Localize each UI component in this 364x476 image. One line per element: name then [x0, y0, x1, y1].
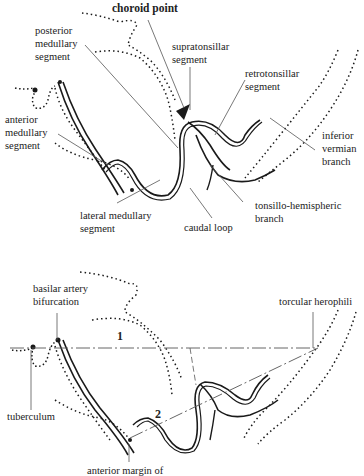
reference-line-2 — [130, 348, 318, 438]
pica-loop-inner — [106, 122, 262, 200]
label-anterior-medullary-segment: anterior medullary segment — [5, 113, 48, 152]
label-tuberculum: tuberculum — [7, 410, 55, 423]
label-lateral-medullary-segment: lateral medullary segment — [80, 209, 151, 235]
label-tonsillo-hemispheric-branch: tonsillo-hemispheric branch — [255, 199, 341, 225]
dotted-contour-upper — [82, 13, 175, 100]
dotted-contour-inner — [95, 51, 175, 140]
dotted-contour-inner-b — [92, 318, 172, 395]
label-torcular-herophili: torcular herophili — [279, 295, 352, 308]
label-anterior-margin: anterior margin of — [87, 464, 163, 476]
label-retrotonsillar-segment: retrotonsillar segment — [245, 67, 299, 93]
dotted-contour-vermis-1b — [243, 310, 338, 440]
dotted-contour-upper-b — [80, 272, 182, 380]
tonsillo-branch-stub — [207, 165, 213, 190]
tonsillo-stub-b — [210, 410, 215, 440]
label-line-2: 2 — [155, 408, 161, 421]
dotted-contour-anterior — [55, 88, 105, 170]
pica-anatomy-figure: choroid point posterior medullary segmen… — [0, 0, 364, 476]
label-posterior-medullary-segment: posterior medullary segment — [35, 24, 78, 63]
label-caudal-loop: caudal loop — [184, 221, 233, 234]
diagram-artwork — [0, 0, 364, 476]
label-supratonsillar-segment: supratonsillar segment — [172, 40, 229, 66]
label-line-1: 1 — [117, 330, 123, 343]
label-inferior-vermian-branch: inferior vermian branch — [322, 129, 356, 168]
dotted-contour-medulla — [55, 143, 130, 180]
label-basilar-artery-bifurcation: basilar artery bifurcation — [33, 282, 88, 308]
artery-inner — [63, 82, 124, 193]
dotted-contour-vermis-2b — [258, 312, 356, 444]
artery-inner-b — [63, 340, 134, 453]
label-choroid-point: choroid point — [112, 2, 178, 15]
perpendicular-line — [190, 348, 196, 385]
